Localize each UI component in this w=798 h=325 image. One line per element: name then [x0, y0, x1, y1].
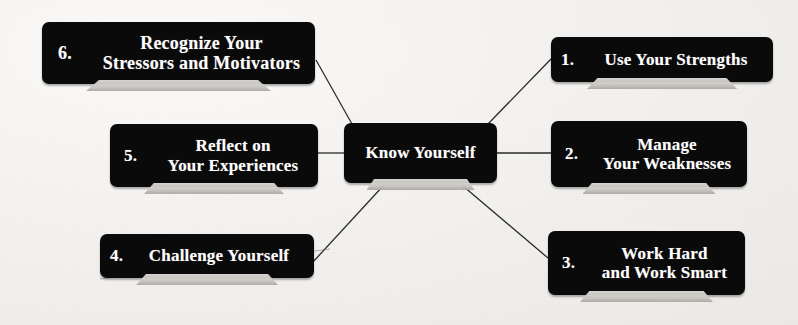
node-3-content: 3. Work Hard and Work Smart — [548, 244, 745, 282]
node-1-use-your-strengths[interactable]: 1. Use Your Strengths — [551, 37, 773, 82]
node-5-content: 5. Reflect on Your Experiences — [110, 136, 318, 174]
node-4-content: 4. Challenge Yourself — [100, 246, 314, 266]
node-6-label: Recognize Your Stressors and Motivators — [98, 33, 305, 73]
node-4-number: 4. — [108, 246, 132, 266]
node-2-content: 2. Manage Your Weaknesses — [551, 135, 747, 173]
node-6-recognize-your-stressors-and-motivators[interactable]: 6. Recognize Your Stressors and Motivato… — [42, 22, 315, 84]
node-5-reflect-on-your-experiences[interactable]: 5. Reflect on Your Experiences — [110, 124, 318, 187]
node-2-number: 2. — [561, 144, 597, 164]
center-node-tab — [367, 179, 475, 190]
node-1-label: Use Your Strengths — [585, 50, 767, 69]
node-1-content: 1. Use Your Strengths — [551, 50, 773, 70]
node-2-manage-your-weaknesses[interactable]: 2. Manage Your Weaknesses — [551, 121, 747, 187]
connector-center-to-6 — [316, 60, 352, 124]
node-5-number: 5. — [120, 146, 158, 166]
node-3-number: 3. — [558, 253, 594, 273]
node-6-content: 6. Recognize Your Stressors and Motivato… — [42, 33, 315, 73]
center-node-know-yourself[interactable]: Know Yourself — [344, 123, 497, 183]
node-1-number: 1. — [557, 50, 585, 70]
connector-center-to-4 — [313, 186, 383, 262]
node-3-work-hard-and-work-smart[interactable]: 3. Work Hard and Work Smart — [548, 231, 745, 295]
node-5-label: Reflect on Your Experiences — [158, 136, 308, 174]
center-node-content: Know Yourself — [344, 144, 497, 163]
node-4-label: Challenge Yourself — [132, 246, 306, 265]
node-5-tab — [144, 183, 284, 194]
node-4-challenge-yourself[interactable]: 4. Challenge Yourself — [100, 234, 314, 278]
node-2-tab — [583, 183, 716, 194]
node-6-tab — [86, 80, 271, 91]
node-3-tab — [580, 291, 713, 302]
connector-center-to-1 — [488, 59, 551, 124]
center-node-label: Know Yourself — [354, 144, 487, 163]
connector-center-to-3 — [463, 186, 548, 258]
node-6-number: 6. — [52, 43, 98, 64]
diagram-canvas: 6. Recognize Your Stressors and Motivato… — [0, 0, 798, 325]
node-4-tab — [136, 274, 278, 285]
node-2-label: Manage Your Weaknesses — [597, 135, 737, 173]
node-1-tab — [587, 78, 737, 89]
node-3-label: Work Hard and Work Smart — [594, 244, 735, 282]
